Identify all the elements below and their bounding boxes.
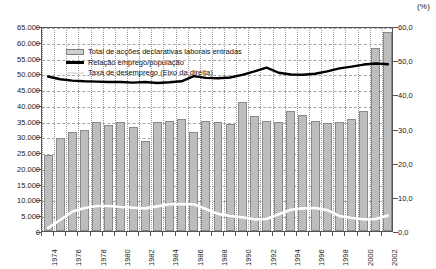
x-axis-tick: 1982 (147, 249, 156, 266)
x-axis-tickmark (162, 232, 163, 236)
right-axis-tick: 40,0 (398, 91, 434, 100)
x-axis-tickmark (199, 232, 200, 236)
left-axis-tick: 5.000 (0, 212, 40, 221)
x-axis-tick: 1978 (99, 249, 108, 266)
x-axis-tick: 1990 (244, 249, 253, 266)
legend-label-bars: Total de acções declarativas laborais en… (88, 47, 242, 58)
x-axis-tickmark (332, 232, 333, 236)
right-axis-tickmark (393, 198, 398, 199)
x-axis-tickmark (53, 232, 54, 236)
x-axis-tickmark (308, 232, 309, 236)
x-axis-tickmark (284, 232, 285, 236)
x-axis-tickmark (357, 232, 358, 236)
left-axis-tick: 20.000 (0, 164, 40, 173)
white-line-swatch-icon (66, 72, 84, 74)
left-axis-tick: 65.000 (0, 23, 40, 32)
legend-item-bars: Total de acções declarativas laborais en… (66, 47, 242, 58)
x-axis-tickmark (211, 232, 212, 236)
black-line-swatch-icon (66, 61, 84, 64)
x-axis-tickmark (187, 232, 188, 236)
x-axis-tickmark (90, 232, 91, 236)
x-axis-tickmark (344, 232, 345, 236)
x-axis-tick: 1980 (123, 249, 132, 266)
x-axis-tickmark (102, 232, 103, 236)
right-axis-tickmark (393, 130, 398, 131)
x-axis-tick: 1974 (50, 249, 59, 266)
x-axis-tick: 1992 (269, 249, 278, 266)
right-axis-tick: 0,0 (398, 228, 434, 237)
right-axis-tick: 60,0 (398, 23, 434, 32)
left-axis-tick: 35.000 (0, 117, 40, 126)
right-axis-tickmark (393, 164, 398, 165)
left-axis-tick: 60.000 (0, 38, 40, 47)
bar-swatch-icon (66, 49, 84, 55)
x-axis-tickmark (320, 232, 321, 236)
x-axis-tickmark (381, 232, 382, 236)
legend-item-unemployment-rate: Taxa de desemprego (Eixo da direita) (66, 68, 242, 79)
right-axis-tick: 30,0 (398, 125, 434, 134)
x-axis-tickmark (272, 232, 273, 236)
x-axis-tickmark (296, 232, 297, 236)
x-axis-tickmark (175, 232, 176, 236)
left-axis-tick: 0 (0, 228, 40, 237)
x-axis-tick: 1976 (74, 249, 83, 266)
left-axis-tick: 10.000 (0, 196, 40, 205)
x-axis-tick: 1988 (220, 249, 229, 266)
left-axis-tick: 40.000 (0, 101, 40, 110)
x-axis-tickmark (126, 232, 127, 236)
chart-figure: (%) 05.00010.00015.00020.00025.00030.000… (0, 0, 436, 269)
legend-label-unemployment-rate: Taxa de desemprego (Eixo da direita) (88, 68, 213, 79)
right-axis-tick: 50,0 (398, 57, 434, 66)
x-axis-tick: 1998 (341, 249, 350, 266)
right-axis-unit-label: (%) (417, 2, 430, 11)
x-axis-tickmark (247, 232, 248, 236)
legend-item-employment-ratio: Relação emprego/população (66, 58, 242, 69)
x-axis-tickmark (235, 232, 236, 236)
x-axis-tickmark (114, 232, 115, 236)
right-axis-tick: 10,0 (398, 193, 434, 202)
x-axis-tick: 1984 (171, 249, 180, 266)
x-axis-tickmark (259, 232, 260, 236)
right-axis-tickmark (393, 27, 398, 28)
x-axis-tick: 2000 (366, 249, 375, 266)
x-axis-tick: 1996 (317, 249, 326, 266)
left-axis-tick: 15.000 (0, 180, 40, 189)
x-axis-tickmark (150, 232, 151, 236)
x-axis-tickmark (77, 232, 78, 236)
x-axis-tickmark (41, 232, 42, 236)
right-axis-tick: 20,0 (398, 159, 434, 168)
unemployment-rate-line (48, 204, 388, 228)
x-axis-tick: 1986 (196, 249, 205, 266)
x-axis-tick: 2002 (390, 249, 399, 266)
legend-label-employment-ratio: Relação emprego/população (88, 58, 184, 69)
x-axis-tickmark (369, 232, 370, 236)
left-axis-tick: 50.000 (0, 70, 40, 79)
x-axis-tickmark (223, 232, 224, 236)
left-axis-tick: 55.000 (0, 54, 40, 63)
x-axis-tick: 1994 (293, 249, 302, 266)
right-axis-tickmark (393, 61, 398, 62)
left-axis-tick: 30.000 (0, 133, 40, 142)
right-axis-tickmark (393, 232, 398, 233)
left-axis-tick: 25.000 (0, 149, 40, 158)
right-axis-tickmark (393, 95, 398, 96)
x-axis-tickmark (138, 232, 139, 236)
chart-legend: Total de acções declarativas laborais en… (66, 47, 242, 79)
x-axis-tickmark (65, 232, 66, 236)
left-axis-tick: 45.000 (0, 86, 40, 95)
